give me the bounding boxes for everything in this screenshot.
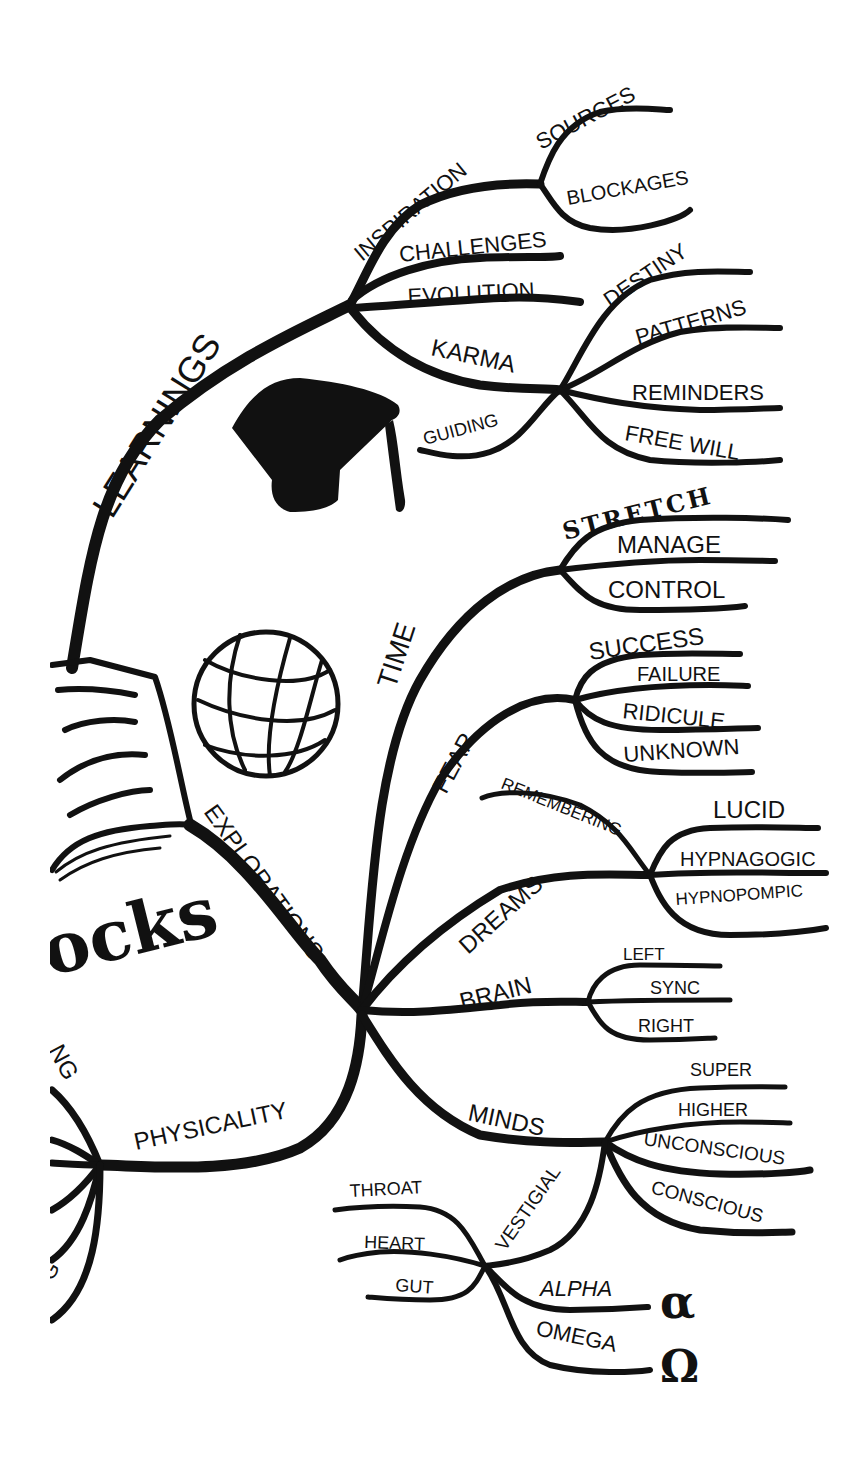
omega-symbol-icon: Ω <box>660 1341 699 1392</box>
label-control: CONTROL <box>608 576 725 603</box>
label-alpha: ALPHA <box>538 1276 612 1301</box>
label-reminders: REMINDERS <box>632 380 764 405</box>
label-fear: FEAR <box>427 728 481 797</box>
label-left: LEFT <box>623 945 665 964</box>
label-evolution: EVOLUTION <box>407 277 535 309</box>
label-learnings: LEARNINGS <box>84 326 229 524</box>
open-book-icon <box>52 660 190 880</box>
label-time: TIME <box>371 619 421 692</box>
label-heart: HEART <box>364 1232 425 1254</box>
mind-map-canvas: ocks LEARNINGS INSPIRATION SOURCES BLOCK… <box>0 0 866 1481</box>
branch-sync <box>588 1000 730 1002</box>
label-sync: SYNC <box>650 978 700 998</box>
left-margin <box>0 0 50 1481</box>
label-success: SUCCESS <box>587 622 706 665</box>
label-blockages: BLOCKAGES <box>565 166 690 209</box>
center-title-fragment: ocks <box>33 869 225 992</box>
label-unknown: UNKNOWN <box>623 734 741 767</box>
label-sources: SOURCES <box>532 81 640 154</box>
alpha-symbol-icon: α <box>660 1275 695 1329</box>
label-vestigial: VESTIGIAL <box>491 1162 565 1254</box>
label-gut: GUT <box>395 1275 434 1298</box>
label-hypnagogic: HYPNAGOGIC <box>680 848 816 870</box>
label-right: RIGHT <box>638 1016 694 1036</box>
graduation-cap-icon <box>232 378 405 512</box>
branch-manage <box>560 560 775 570</box>
label-throat: THROAT <box>349 1177 423 1201</box>
label-failure: FAILURE <box>637 663 720 685</box>
branch-hypnagogic <box>650 872 826 875</box>
label-omega: OMEGA <box>534 1315 620 1357</box>
label-remembering: REMEMBERING <box>499 774 625 840</box>
globe-icon <box>194 632 338 776</box>
label-hypnopompic: HYPNOPOMPIC <box>675 881 804 909</box>
label-patterns: PATTERNS <box>632 294 749 349</box>
branch-physicality-sub-3 <box>52 1163 100 1165</box>
label-unconscious: UNCONSCIOUS <box>642 1128 786 1169</box>
label-guiding: GUIDING <box>421 410 501 449</box>
branch-failure <box>575 685 748 700</box>
label-higher: HIGHER <box>678 1100 748 1120</box>
branch-heart <box>340 1252 485 1266</box>
label-lucid: LUCID <box>713 796 785 823</box>
label-super: SUPER <box>690 1060 752 1080</box>
label-manage: MANAGE <box>617 531 721 558</box>
label-physicality: PHYSICALITY <box>131 1096 289 1155</box>
